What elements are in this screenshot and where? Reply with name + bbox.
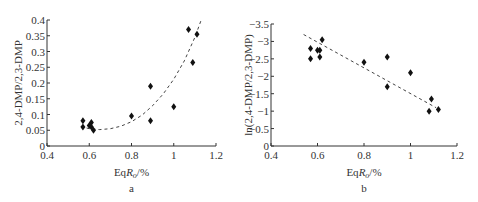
y-tick-label: 0.35 [26,30,46,42]
chart-panel-a: 0.40.60.811.200.050.10.150.20.250.30.350… [12,14,223,194]
trendline [81,20,201,130]
data-point [362,59,367,66]
y-tick-label: 0.2 [31,77,45,89]
data-point [429,95,434,102]
y-tick-label: 0 [264,140,270,152]
data-point [80,124,85,131]
y-tick-label: −2 [257,70,269,82]
y-tick-label: −3.5 [249,18,269,30]
data-point [408,69,413,76]
y-tick-label: −1 [257,105,269,117]
y-tick-label: 0.4 [31,14,45,26]
data-point [385,83,390,90]
data-point [129,113,134,120]
x-tick-label: 0.6 [311,149,325,161]
data-point [80,117,85,124]
data-point [308,55,313,62]
data-point [320,36,325,43]
y-tick-label: 0.3 [31,46,45,58]
y-tick-label: 0.1 [31,109,45,121]
x-tick-label: 1.2 [209,149,223,161]
y-axis-label: 2,4-DMP/2,3-DMP [12,40,24,126]
y-axis-label: ln(2,4-DMP/2,3-DMP) [242,34,255,136]
data-point [171,103,176,110]
data-point [436,106,441,113]
trendline [304,35,437,108]
y-tick-label: 0.25 [26,61,46,73]
chart-panel-b: 0.40.60.811.20−0.5−1−1.5−2−2.5−3−3.5ln(2… [242,18,464,194]
panel-label: a [129,182,134,194]
data-point [308,45,313,52]
data-point [148,117,153,124]
x-tick-label: 0.8 [125,149,139,161]
data-point [427,108,432,115]
x-axis-label: EqRo/% [346,166,381,180]
y-tick-label: 0.05 [26,124,46,136]
data-point [385,54,390,61]
data-point [148,83,153,90]
figure: 0.40.60.811.200.050.10.150.20.250.30.350… [0,0,478,202]
x-tick-label: 1 [171,149,177,161]
x-axis-label: EqRo/% [114,166,149,180]
y-tick-label: 0.15 [26,93,46,105]
data-point [317,54,322,61]
x-tick-label: 1.2 [450,149,464,161]
x-tick-label: 1 [408,149,414,161]
panel-label: b [361,182,367,194]
data-point [190,59,195,66]
data-point [186,26,191,33]
x-tick-label: 0.6 [82,149,96,161]
x-tick-label: 0.8 [357,149,371,161]
y-tick-label: −3 [257,35,269,47]
y-tick-label: 0 [40,140,46,152]
data-point [194,31,199,38]
